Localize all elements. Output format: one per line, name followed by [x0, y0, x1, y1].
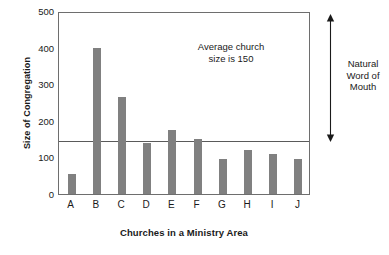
- bar-f: [194, 139, 202, 194]
- bar-j: [294, 159, 302, 195]
- x-axis-tick-label: C: [111, 198, 131, 211]
- bar-a: [68, 174, 76, 194]
- x-axis-tick-label: G: [212, 198, 232, 211]
- x-axis-tick-label: I: [262, 198, 282, 211]
- average-annotation: Average church size is 150: [172, 41, 290, 65]
- bar-chart: Size of Congregation 0100200300400500 Av…: [0, 0, 389, 255]
- average-annotation-line-2: size is 150: [172, 53, 290, 65]
- bar-d: [143, 143, 151, 194]
- y-axis-tick-labels: 0100200300400500: [28, 0, 54, 255]
- average-annotation-line-1: Average church: [172, 41, 290, 53]
- bar-b: [93, 48, 101, 194]
- natural-label-line-3: Mouth: [338, 81, 388, 93]
- bar-g: [219, 159, 227, 195]
- x-axis-tick-labels: ABCDEFGHIJ: [58, 198, 310, 214]
- bar-h: [244, 150, 252, 194]
- x-axis-tick-label: F: [187, 198, 207, 211]
- x-axis-tick-label: A: [61, 198, 81, 211]
- x-axis-title: Churches in a Ministry Area: [58, 227, 310, 238]
- bar-i: [269, 154, 277, 194]
- natural-word-of-mouth-arrow-icon: [326, 14, 335, 142]
- natural-word-of-mouth-label: Natural Word of Mouth: [338, 58, 388, 93]
- y-axis-tick-label: 500: [30, 7, 54, 17]
- y-axis-tick-label: 100: [30, 153, 54, 163]
- x-axis-tick-label: J: [287, 198, 307, 211]
- y-axis-tick-label: 200: [30, 117, 54, 127]
- natural-label-line-1: Natural: [338, 58, 388, 70]
- bar-c: [118, 97, 126, 194]
- y-axis-tick-label: 300: [30, 80, 54, 90]
- x-axis-tick-label: B: [86, 198, 106, 211]
- y-axis-tick-label: 0: [30, 190, 54, 200]
- x-axis-tick-label: H: [237, 198, 257, 211]
- bar-e: [168, 130, 176, 194]
- x-axis-tick-label: D: [136, 198, 156, 211]
- natural-label-line-2: Word of: [338, 70, 388, 82]
- y-axis-tick-label: 400: [30, 44, 54, 54]
- x-axis-tick-label: E: [161, 198, 181, 211]
- plot-area: [58, 12, 310, 195]
